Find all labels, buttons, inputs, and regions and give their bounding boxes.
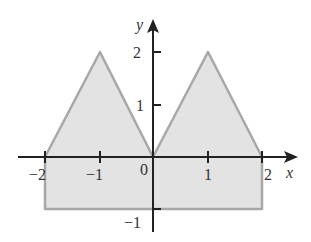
y-tick-label-1: 1 — [136, 97, 144, 114]
x-axis-label: x — [285, 164, 293, 181]
origin-label: 0 — [140, 161, 148, 178]
y-axis-label: y — [134, 16, 144, 34]
y-tick-label-2: 2 — [133, 44, 141, 61]
region-diagram: −2 −1 1 2 0 2 1 −1 x y — [0, 0, 311, 242]
x-tick-label-neg2: −2 — [29, 166, 46, 183]
y-tick-label-neg1: −1 — [124, 214, 141, 231]
x-tick-label-2: 2 — [264, 166, 272, 183]
x-tick-label-neg1: −1 — [86, 166, 103, 183]
x-tick-label-1: 1 — [204, 166, 212, 183]
